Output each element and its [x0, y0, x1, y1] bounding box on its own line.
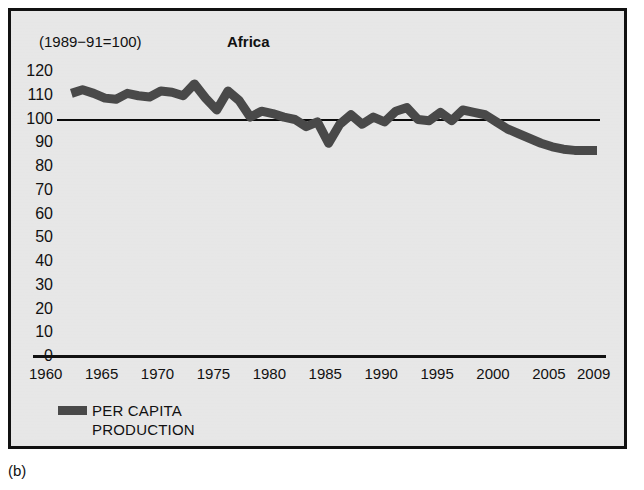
- series-line-per-capita-production: [71, 84, 597, 151]
- chart-frame: (1989−91=100) Africa 1201101009080706050…: [8, 8, 627, 449]
- legend: PER CAPITA PRODUCTION: [58, 401, 358, 439]
- legend-item-per-capita-production: PER CAPITA: [58, 401, 358, 420]
- legend-label-line1: PER CAPITA: [92, 401, 182, 420]
- series-layer: [11, 11, 624, 446]
- plot-area: (1989−91=100) Africa 1201101009080706050…: [11, 11, 624, 446]
- legend-swatch-icon: [58, 406, 87, 415]
- figure-caption: (b): [8, 462, 26, 479]
- figure-container: (1989−91=100) Africa 1201101009080706050…: [0, 0, 644, 490]
- legend-label-line2: PRODUCTION: [92, 420, 358, 439]
